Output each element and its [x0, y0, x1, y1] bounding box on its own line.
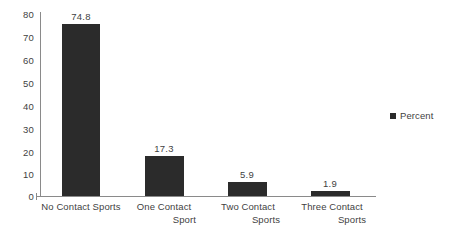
bar-two-contact-sports	[228, 182, 267, 196]
category-label-line: Sports	[208, 214, 288, 227]
bar-no-contact-sports	[62, 24, 100, 196]
x-axis-category-labels: No Contact Sports One Contact Sport Two …	[0, 201, 455, 241]
category-label-line: Three Contact	[301, 201, 363, 212]
bar-value-label: 1.9	[300, 178, 360, 189]
bar-value-label: 17.3	[134, 143, 194, 154]
category-label-line: One Contact	[137, 201, 191, 212]
category-label-two-contact-sports: Two Contact Sports	[208, 201, 288, 226]
category-label-line: No Contact Sports	[41, 201, 120, 212]
category-label-no-contact-sports: No Contact Sports	[36, 201, 126, 214]
category-label-line: Sport	[124, 214, 204, 227]
legend-swatch-icon	[390, 113, 396, 119]
bar-three-contact-sports	[311, 191, 350, 196]
category-label-three-contact-sports: Three Contact Sports	[290, 201, 374, 226]
category-label-line: Two Contact	[221, 201, 275, 212]
category-label-one-contact-sport: One Contact Sport	[124, 201, 204, 226]
chart-legend: Percent	[390, 110, 433, 121]
bar-chart: 80 70 60 50 40 30 20 10 0 74.8 17.3 5.9 …	[0, 0, 455, 242]
bar-value-label: 5.9	[217, 169, 277, 180]
category-label-line: Sports	[290, 214, 374, 227]
legend-label-percent: Percent	[400, 110, 433, 121]
bar-one-contact-sport	[145, 156, 184, 196]
bar-value-label: 74.8	[51, 11, 111, 22]
